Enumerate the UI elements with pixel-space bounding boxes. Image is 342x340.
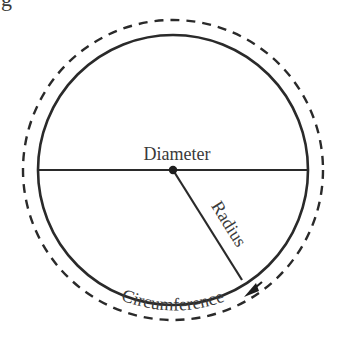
radius-label: Radius (207, 197, 250, 250)
circle-diagram: g Diameter Radius Circumference (0, 0, 342, 340)
cropped-glyph: g (1, 0, 12, 11)
diameter-label: Diameter (144, 144, 211, 164)
circumference-label: Circumference (119, 285, 226, 315)
center-point (169, 166, 177, 174)
circumference-label-path: Circumference (119, 285, 226, 315)
